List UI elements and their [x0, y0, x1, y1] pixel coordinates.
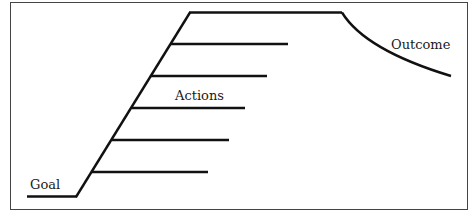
frame-border [11, 3, 468, 210]
goal-label: Goal [30, 177, 60, 192]
actions-label: Actions [174, 88, 224, 103]
goal-actions-outcome-diagram: Goal Actions Outcome [0, 0, 475, 216]
outcome-label: Outcome [391, 37, 451, 52]
